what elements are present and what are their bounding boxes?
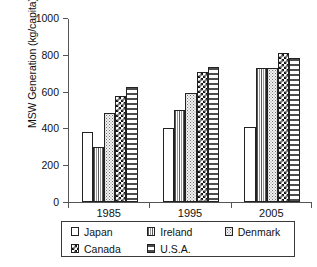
msw-generation-bar-chart: MSW Generation (kg/capita) 0200400600800… [0, 0, 317, 267]
legend-label-denmark: Denmark [238, 226, 281, 238]
legend-label-canada: Canada [84, 243, 121, 255]
bar-canada-1995 [197, 72, 208, 202]
y-axis-tick: 1000 [63, 18, 68, 19]
legend-row: JapanIrelandDenmark [62, 223, 294, 240]
x-axis-tick [311, 203, 312, 208]
legend-swatch-usa [147, 244, 155, 253]
bar-ireland-2005 [256, 68, 267, 202]
x-axis-group-label: 1995 [178, 207, 202, 219]
legend-label-usa: U.S.A. [160, 243, 190, 255]
legend-label-japan: Japan [84, 226, 113, 238]
y-axis-tick-label: 400 [41, 122, 59, 134]
y-axis-tick: 600 [63, 92, 68, 93]
y-axis-line [68, 19, 69, 203]
legend-item-denmark: Denmark [221, 223, 294, 240]
plot-area: 02004006008001000 [68, 19, 312, 203]
y-axis-tick-label: 800 [41, 49, 59, 61]
legend-item-canada: Canada [62, 240, 143, 257]
legend: JapanIrelandDenmark CanadaU.S.A. [61, 221, 295, 257]
y-axis-tick: 200 [63, 165, 68, 166]
x-axis-tick [68, 203, 69, 208]
bar-ireland-1985 [93, 147, 104, 202]
bar-japan-1985 [82, 132, 93, 202]
bar-usa-2005 [289, 58, 300, 202]
y-axis-tick: 800 [63, 55, 68, 56]
x-axis-group-label: 1985 [96, 207, 120, 219]
legend-swatch-ireland [147, 227, 155, 236]
y-axis-tick-label: 1000 [36, 12, 59, 24]
bar-denmark-2005 [267, 68, 278, 202]
y-axis-tick-label: 0 [53, 196, 59, 208]
bar-denmark-1995 [185, 93, 196, 202]
y-axis-tick: 400 [63, 128, 68, 129]
x-axis-group-label: 2005 [259, 207, 283, 219]
y-axis-tick-label: 200 [41, 159, 59, 171]
bar-japan-1995 [163, 128, 174, 202]
bar-usa-1995 [208, 67, 219, 202]
legend-item-japan: Japan [62, 223, 143, 240]
x-axis-tick [149, 203, 150, 208]
legend-item-ireland: Ireland [143, 223, 220, 240]
x-axis-line [68, 202, 312, 203]
bar-canada-2005 [278, 53, 289, 202]
bar-ireland-1995 [174, 110, 185, 202]
legend-swatch-denmark [225, 227, 233, 236]
legend-swatch-japan [71, 227, 79, 236]
legend-item-empty [221, 240, 294, 257]
legend-item-usa: U.S.A. [143, 240, 220, 257]
bar-japan-2005 [244, 127, 255, 202]
bar-usa-1985 [126, 87, 137, 202]
y-axis-tick-label: 600 [41, 86, 59, 98]
bar-canada-1985 [115, 96, 126, 202]
x-axis-tick [231, 203, 232, 208]
bar-denmark-1985 [104, 113, 115, 202]
legend-label-ireland: Ireland [160, 226, 192, 238]
legend-swatch-canada [71, 244, 79, 253]
legend-row: CanadaU.S.A. [62, 240, 294, 257]
